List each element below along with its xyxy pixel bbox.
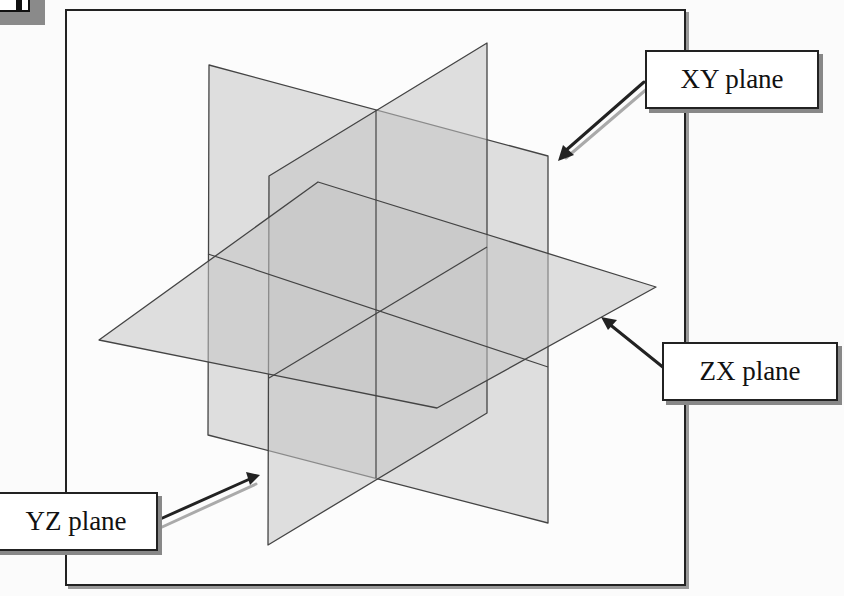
zx-plane-shape xyxy=(99,182,656,408)
xy-plane-label: XY plane xyxy=(645,50,819,109)
zx-arrow xyxy=(601,317,664,368)
yz-plane-label: YZ plane xyxy=(0,492,158,551)
xy-arrow xyxy=(558,82,648,161)
zx-plane-label: ZX plane xyxy=(662,342,838,401)
yz-arrow xyxy=(158,472,260,528)
